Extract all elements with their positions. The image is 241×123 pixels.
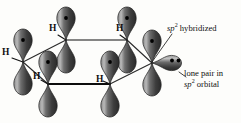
p-lobe-down-5 <box>39 84 57 117</box>
p-lobe-down-2 <box>118 40 136 73</box>
electron-dot-3 <box>150 39 154 43</box>
electron-dot-1 <box>64 16 68 20</box>
annotation-lone-pair-suffix: orbital <box>195 79 220 89</box>
annotation-sp2-italic: sp <box>167 23 175 33</box>
electron-dot-6 <box>21 38 25 42</box>
atom-label-h-upper-left: H <box>49 24 56 34</box>
atom-label-h-left: H <box>2 48 9 58</box>
ch-bond-left <box>12 58 23 62</box>
annotation-sp2-hybridized: sp2 hybridized <box>167 22 217 33</box>
lone-pair-orbital-lobe <box>152 55 182 70</box>
electron-dot-2 <box>125 16 129 20</box>
p-lobe-down-1 <box>57 40 75 73</box>
p-lobe-down-4 <box>101 84 119 117</box>
lone-pair-electron-dot-2 <box>177 59 181 63</box>
lone-pair-electron-dot-1 <box>170 59 174 63</box>
annotation-lone-pair-italic: sp <box>184 79 192 89</box>
electron-dot-4 <box>108 60 112 64</box>
atom-label-h-lower-right: H <box>96 75 103 85</box>
annotation-sp2-suffix: hybridized <box>178 23 217 33</box>
p-lobe-up-1 <box>57 7 75 40</box>
orbital-diagram-svg <box>0 0 241 123</box>
figure-canvas: H H H H H sp2 hybridized lone pair in sp… <box>0 0 241 123</box>
annotation-lone-pair: lone pair in sp2 orbital <box>184 68 223 89</box>
p-lobe-up-6 <box>14 29 32 62</box>
p-lobe-up-4 <box>101 51 119 84</box>
annotation-lone-pair-line1: lone pair in <box>184 68 223 78</box>
atom-label-h-upper-right: H <box>116 24 123 34</box>
p-lobe-down-3 <box>143 63 161 96</box>
p-lobe-up-3 <box>143 30 161 63</box>
electron-dot-5 <box>46 60 50 64</box>
atom-label-h-lower-left: H <box>33 72 40 82</box>
